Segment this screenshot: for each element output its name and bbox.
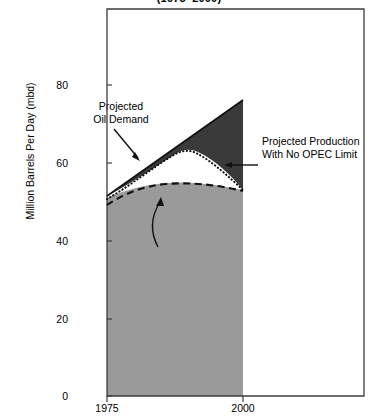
x-tick-marks [107,396,243,402]
area-production-fill [107,182,243,396]
chart-figure: (1975–2000) Million Barrels Per Day (mbd… [0,0,378,416]
annotation-arrow-oil-demand [114,129,140,161]
chart-plot-svg [0,0,378,416]
